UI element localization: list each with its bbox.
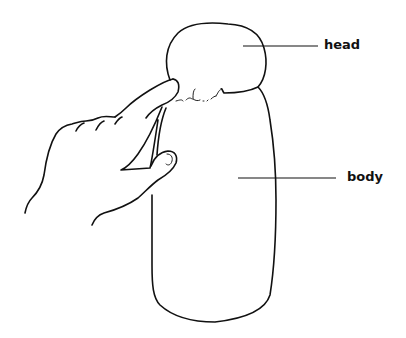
head-outline <box>166 23 266 93</box>
hand-knuckles <box>25 116 115 213</box>
hand-folded-finger <box>121 107 162 170</box>
hand-thumb <box>92 151 177 225</box>
body-outline <box>152 87 276 322</box>
thumb-nail <box>166 154 172 165</box>
hand-index-finger-underside <box>146 79 179 118</box>
head-label: head <box>324 38 360 51</box>
body-label: body <box>347 170 383 183</box>
neck-ruffle <box>176 89 220 101</box>
diagram-canvas: head body <box>0 0 406 338</box>
hand-knuckle-creases <box>76 117 122 131</box>
